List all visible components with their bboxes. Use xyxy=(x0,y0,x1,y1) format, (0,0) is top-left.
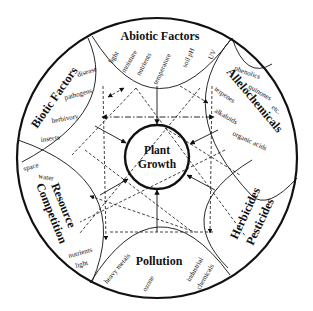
center-circle xyxy=(125,125,189,189)
allelo-item-alkaloids: alkaloids xyxy=(213,107,239,127)
allelo-item-terpenes: terpenes xyxy=(213,85,237,105)
biotic-item-disease: disease xyxy=(76,65,98,79)
plant-growth-diagram: Plant Growth Abiotic Factors light moist… xyxy=(0,0,313,311)
abiotic-title: Abiotic Factors xyxy=(121,29,200,43)
pollution-item-ozone: ozone xyxy=(141,275,156,293)
abiotic-item-light: light xyxy=(107,50,121,65)
abiotic-item-soil-ph: soil pH xyxy=(181,47,197,69)
biotic-item-insects: insects xyxy=(40,133,60,144)
pollution-item-heavy-metals: heavy metals xyxy=(102,252,132,285)
allelo-item-organic-acids: organic acids xyxy=(231,130,268,153)
pollution-title: Pollution xyxy=(136,254,183,268)
resource-item-nutrients: nutrients xyxy=(67,246,93,260)
resource-item-light: light xyxy=(74,259,89,270)
center-label-line2: Growth xyxy=(138,158,177,170)
abiotic-item-temperature: temperature xyxy=(152,52,173,86)
abiotic-item-uv: UV xyxy=(207,48,219,61)
center-label-line1: Plant xyxy=(144,144,170,156)
resource-item-space: space xyxy=(22,161,39,173)
